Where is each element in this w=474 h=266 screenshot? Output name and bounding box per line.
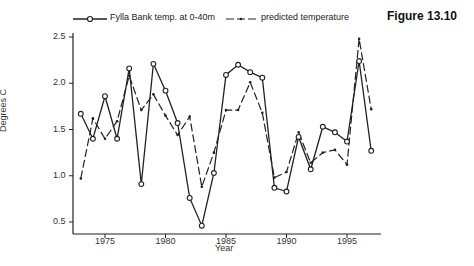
y-axis-label: Degrees C [0, 89, 8, 132]
x-tick-label: 1975 [95, 236, 115, 246]
figure-title: Figure 13.10 [387, 9, 457, 23]
legend-observed-swatch [73, 17, 107, 22]
y-tick-label: 2.5 [53, 31, 66, 41]
legend-predicted-swatch [226, 18, 256, 21]
x-tick-label: 1990 [277, 236, 297, 246]
chart-canvas [0, 0, 474, 266]
x-tick-label: 1995 [337, 236, 357, 246]
x-tick-label: 1985 [216, 236, 236, 246]
y-tick-label: 2.0 [53, 77, 66, 87]
y-tick-label: 1.0 [53, 170, 66, 180]
x-tick-label: 1980 [156, 236, 176, 246]
y-tick-label: 1.5 [53, 124, 66, 134]
predicted-series [80, 38, 373, 189]
y-tick-label: 0.5 [53, 216, 66, 226]
observed-series [78, 59, 373, 228]
legend-observed-label: Fylla Bank temp. at 0-40m [110, 12, 215, 22]
legend-predicted-label: predicted temperature [261, 12, 349, 22]
